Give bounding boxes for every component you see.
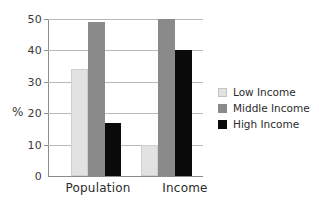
bar-income-middle [158,19,175,176]
legend-label-high: High Income [233,119,299,130]
bar-population-middle [88,22,105,176]
bar-population-low [71,69,88,176]
legend-item-high-income: High Income [218,117,316,132]
y-tick-10: 10 [12,140,42,151]
x-axis-line [48,176,203,177]
y-tick-30: 30 [12,77,42,88]
chart-legend: Low Income Middle Income High Income [218,85,316,133]
legend-swatch-icon-middle [218,104,227,113]
legend-label-middle: Middle Income [233,103,310,114]
gridline-50 [48,19,203,20]
y-tick-20: 20 [12,108,42,119]
bar-chart-figure: % 50 40 30 20 10 0 Population Income [0,0,319,220]
x-label-income: Income [135,182,235,195]
legend-item-middle-income: Middle Income [218,101,316,116]
y-tick-50: 50 [12,14,42,25]
legend-swatch-icon-low [218,88,227,97]
bar-income-low [141,145,158,176]
bar-income-high [175,50,192,176]
bar-population-high [105,123,121,176]
legend-swatch-icon-high [218,120,227,129]
legend-item-low-income: Low Income [218,85,316,100]
y-tick-0: 0 [12,171,42,182]
plot-area [48,19,203,176]
legend-label-low: Low Income [233,87,296,98]
y-tick-40: 40 [12,45,42,56]
x-label-population: Population [48,182,148,195]
